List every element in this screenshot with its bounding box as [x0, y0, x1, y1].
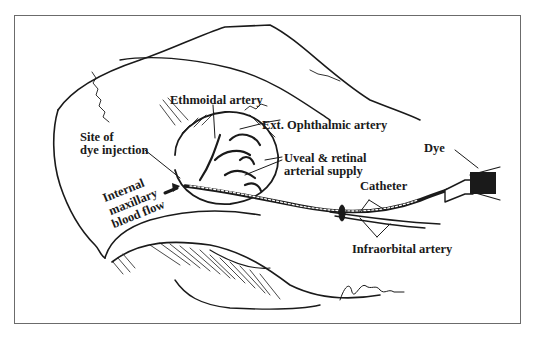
label-dye: Dye [424, 142, 445, 155]
label-ethmoidal-artery: Ethmoidal artery [170, 94, 263, 107]
label-ext-ophthalmic-artery: Ext. Ophthalmic artery [262, 119, 387, 132]
catheter [185, 182, 470, 212]
label-site-of-injection-2: dye injection [80, 144, 148, 157]
orbit-vessels [200, 135, 261, 191]
label-catheter: Catheter [360, 180, 407, 193]
dye-connector [445, 167, 500, 202]
label-uveal-2: arterial supply [284, 165, 363, 178]
label-infraorbital-artery: Infraorbital artery [352, 243, 452, 256]
skull-illustration [0, 0, 537, 339]
